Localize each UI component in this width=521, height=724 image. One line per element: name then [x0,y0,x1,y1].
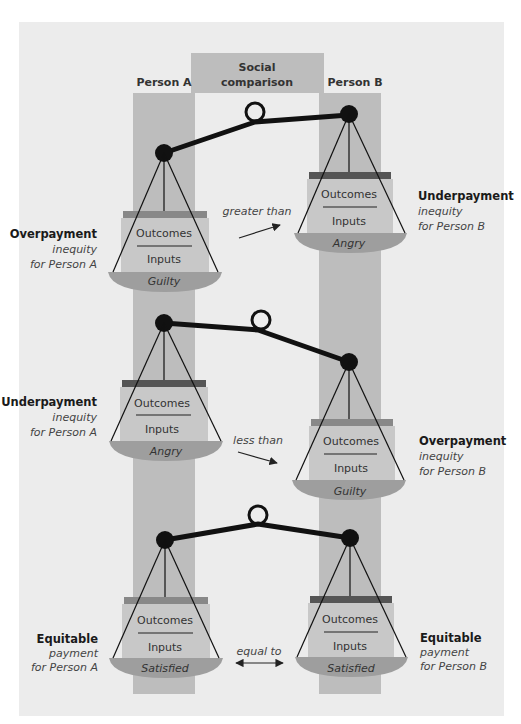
left-condition-line2: payment [48,647,99,660]
right-condition-line3: for Person B [419,465,486,478]
relation-label: less than [233,434,283,447]
social-comparison-label-2: comparison [221,76,293,89]
left-condition-line3: for Person A [30,426,97,439]
right-condition-line2: inequity [418,205,463,218]
emotion-label: Angry [332,237,366,250]
person-a-label: Person A [136,76,192,89]
right-condition-line3: for Person B [420,660,487,673]
right-condition-title: Overpayment [419,434,507,448]
right-condition-title: Underpayment [418,189,514,203]
person-b-label: Person B [327,76,382,89]
inputs-label: Inputs [147,253,181,266]
left-condition-line3: for Person A [31,661,98,674]
relation-label: greater than [222,205,291,218]
outcomes-label: Outcomes [136,227,192,240]
left-condition-line2: inequity [52,411,97,424]
inputs-label: Inputs [333,640,367,653]
background-panel [19,22,504,716]
inputs-label: Inputs [334,462,368,475]
right-condition-line3: for Person B [418,220,485,233]
inputs-label: Inputs [148,641,182,654]
inputs-label: Inputs [145,423,179,436]
left-condition-line2: inequity [52,243,97,256]
relation-label: equal to [236,645,281,658]
inputs-label: Inputs [332,215,366,228]
outcomes-label: Outcomes [321,188,377,201]
equity-theory-diagram: Person A Social comparison Person B Outc… [0,0,521,724]
left-condition-title: Equitable [37,632,99,646]
outcomes-label: Outcomes [134,397,190,410]
emotion-label: Satisfied [141,662,190,675]
left-condition-title: Underpayment [1,395,97,409]
outcomes-label: Outcomes [137,614,193,627]
outcomes-label: Outcomes [323,435,379,448]
outcomes-label: Outcomes [322,613,378,626]
right-condition-line2: payment [419,646,470,659]
emotion-label: Guilty [148,275,181,288]
right-condition-line2: inequity [419,450,464,463]
emotion-label: Guilty [334,485,367,498]
social-comparison-label-1: Social [239,61,276,74]
left-condition-title: Overpayment [10,227,98,241]
emotion-label: Angry [149,445,183,458]
right-condition-title: Equitable [420,631,482,645]
left-condition-line3: for Person A [30,258,97,271]
emotion-label: Satisfied [327,662,376,675]
